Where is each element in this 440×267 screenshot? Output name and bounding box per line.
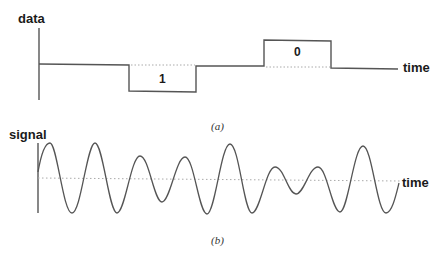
data-axis-label: data — [18, 12, 45, 25]
bit-label-1: 1 — [159, 73, 166, 85]
caption-b: (b) — [211, 235, 224, 246]
panel-a-data-plot — [39, 28, 398, 100]
signal-midline-dotted — [38, 178, 400, 181]
signal-waveform — [38, 143, 399, 214]
time-axis-label-a: time — [403, 61, 430, 74]
modulation-diagram — [0, 0, 440, 267]
panel-b-signal-plot — [38, 143, 400, 214]
time-axis-label-b: time — [402, 176, 429, 189]
signal-axis-label: signal — [9, 128, 47, 141]
caption-a: (a) — [211, 121, 224, 132]
data-step-waveform — [39, 40, 398, 92]
bit-label-0: 0 — [294, 46, 301, 58]
